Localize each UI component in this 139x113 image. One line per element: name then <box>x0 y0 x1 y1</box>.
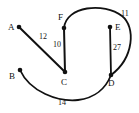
graph-vertex-d <box>109 73 114 78</box>
edge-weight-label: 14 <box>58 99 66 107</box>
graph-vertex-a <box>17 25 22 30</box>
edge-weight-label: 12 <box>39 33 47 41</box>
graph-canvas <box>0 0 139 113</box>
graph-edge <box>64 28 65 72</box>
graph-vertex-c <box>63 70 68 75</box>
edge-weight-label: 11 <box>121 10 129 18</box>
vertex-label-c: C <box>61 78 67 87</box>
vertex-label-d: D <box>108 79 115 88</box>
weighted-graph-diagram: ABCDEF 1210271114 <box>0 0 139 113</box>
vertex-label-b: B <box>9 72 15 81</box>
vertex-label-f: F <box>58 13 63 22</box>
graph-edge <box>110 27 111 75</box>
graph-vertex-b <box>18 68 23 73</box>
edge-weight-label: 10 <box>53 41 61 49</box>
vertex-label-a: A <box>8 23 15 32</box>
graph-vertex-e <box>108 25 113 30</box>
edge-weight-label: 27 <box>113 44 121 52</box>
vertex-label-e: E <box>115 23 121 32</box>
graph-vertex-f <box>62 26 67 31</box>
